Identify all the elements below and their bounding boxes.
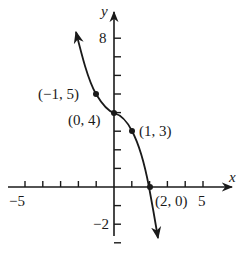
point-2-0 xyxy=(147,184,153,190)
point-label-1-3: (1, 3) xyxy=(139,123,172,140)
point-label-0-4: (0, 4) xyxy=(68,112,101,129)
x-axis-label: x xyxy=(228,169,236,185)
y-axis-ticks xyxy=(114,38,121,243)
y-tick-label-neg2: −2 xyxy=(93,216,109,232)
point-0-4 xyxy=(111,110,117,116)
x-tick-label-neg5: −5 xyxy=(9,193,25,209)
point-label-neg1-5: (−1, 5) xyxy=(38,86,79,103)
graph-canvas: x y −5 5 8 −2 (−1, 5) (0, 4) (1, 3) (2, … xyxy=(0,0,242,253)
y-tick-label-8: 8 xyxy=(99,30,107,46)
point-1-3 xyxy=(129,128,135,134)
point-label-2-0: (2, 0) xyxy=(155,193,188,210)
x-tick-label-5: 5 xyxy=(198,193,206,209)
point-neg1-5 xyxy=(93,91,99,97)
y-axis-label: y xyxy=(99,3,108,19)
